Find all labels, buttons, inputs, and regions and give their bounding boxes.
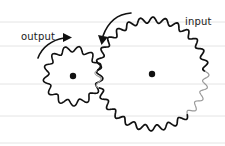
- input-label: input: [185, 16, 212, 27]
- output-gear: [43, 47, 103, 106]
- output-label: output: [21, 31, 55, 42]
- gear-diagram: output input: [0, 0, 225, 146]
- input-gear-axle-dot: [149, 71, 155, 77]
- output-gear-axle-dot: [70, 73, 76, 79]
- input-gear: [95, 17, 209, 131]
